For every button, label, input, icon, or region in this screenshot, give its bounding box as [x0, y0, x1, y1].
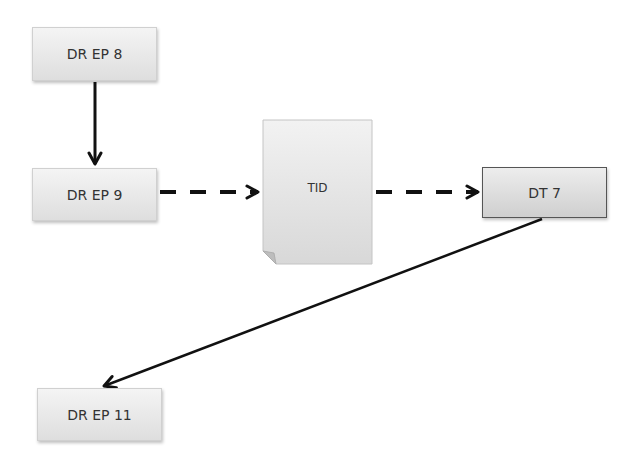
node-label: DR EP 8 — [67, 46, 123, 62]
node-label: TID — [262, 119, 373, 265]
node-label: DR EP 11 — [67, 407, 132, 423]
node-tid-document[interactable]: TID — [262, 119, 373, 265]
node-dr-ep-9[interactable]: DR EP 9 — [32, 168, 157, 221]
node-dr-ep-11[interactable]: DR EP 11 — [37, 388, 162, 441]
node-label: DR EP 9 — [67, 187, 123, 203]
node-dt-7[interactable]: DT 7 — [482, 167, 607, 218]
node-label: DT 7 — [528, 185, 561, 201]
node-dr-ep-8[interactable]: DR EP 8 — [32, 27, 157, 81]
